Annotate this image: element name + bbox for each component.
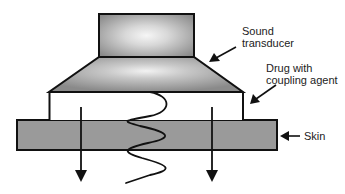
drug-coupling-label-line1: Drug with [266, 62, 338, 74]
sound-transducer-label-line2: transducer [242, 37, 294, 49]
transducer-head [99, 14, 194, 57]
arrow-left-icon [280, 131, 289, 141]
arrow-down-icon [206, 170, 218, 182]
drug-pointer-shaft [256, 85, 276, 99]
transducer-pointer-shaft [216, 47, 236, 58]
drug-coupling-label-line2: coupling agent [266, 74, 338, 86]
arrow-pointer-icon [250, 94, 260, 104]
skin-label: Skin [304, 130, 325, 142]
skin-label-text: Skin [304, 130, 325, 142]
sound-transducer-label: Sound transducer [242, 25, 294, 49]
transducer-horn [49, 57, 243, 92]
skin-layer [17, 120, 277, 150]
ultrasound-drug-delivery-diagram: Sound transducer Drug with coupling agen… [0, 0, 345, 194]
arrow-down-icon [75, 170, 87, 182]
sound-transducer-label-line1: Sound [242, 25, 294, 37]
drug-coupling-label: Drug with coupling agent [266, 62, 338, 86]
drug-coupling-layer [49, 92, 243, 120]
